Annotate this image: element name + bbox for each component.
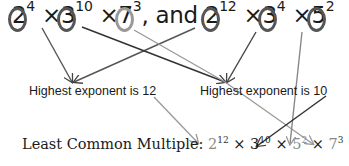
lcm-label: Least Common Multiple:	[22, 136, 203, 152]
factor-3-10: 3	[61, 2, 75, 28]
exponent: 4	[26, 0, 35, 14]
label-highest-exponent-10: Highest exponent is 10	[200, 84, 327, 98]
arrow-2-12-to-left-label	[74, 28, 195, 82]
circle-highlight	[258, 7, 277, 32]
exponent: 12	[219, 0, 236, 14]
arrow-3-4-to-right-label	[227, 32, 256, 82]
top-expression: 24 ×310 ×73, and 212 ×34 ×52	[12, 2, 334, 28]
times-sign: ×	[312, 136, 324, 152]
factor-2-12: 2	[205, 2, 219, 28]
circle-highlight	[115, 7, 134, 32]
conjunction: , and	[141, 2, 197, 28]
exponent: 10	[75, 0, 92, 14]
factor-5-2: 5	[311, 2, 325, 28]
arrow-3-10-to-right-label	[82, 27, 225, 82]
exponent: 4	[277, 0, 286, 14]
circle-highlight	[57, 7, 76, 32]
times-sign: ×	[233, 136, 245, 152]
lcm-term-5-2: 52	[292, 136, 307, 152]
exponent: 2	[326, 0, 335, 14]
lcm-result: Least Common Multiple: 212 × 310 × 52 × …	[22, 136, 343, 152]
exponent: 3	[133, 0, 142, 14]
arrow-2-4-to-left-label	[42, 28, 72, 82]
lcm-term-2-12: 212	[208, 136, 229, 152]
factor-7-3: 7	[119, 2, 133, 28]
circle-highlight	[201, 7, 220, 32]
times-sign: ×	[275, 136, 287, 152]
factor-2-4: 2	[12, 2, 26, 28]
lcm-term-3-10: 310	[250, 136, 271, 152]
circle-highlight	[8, 7, 27, 32]
circle-highlight	[307, 7, 326, 32]
label-highest-exponent-12: Highest exponent is 12	[29, 84, 156, 98]
factor-3-4: 3	[262, 2, 276, 28]
lcm-term-7-3: 73	[328, 136, 343, 152]
lcm-diagram: 24 ×310 ×73, and 212 ×34 ×52 Highest exp…	[0, 0, 349, 166]
